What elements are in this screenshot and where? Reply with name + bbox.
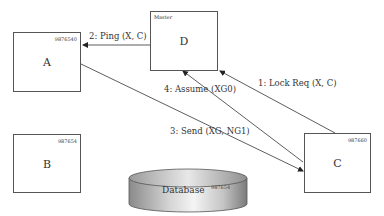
- node-d-tag: Master: [154, 14, 172, 20]
- node-c-id: 987660: [348, 137, 367, 143]
- node-d-name: D: [151, 35, 217, 48]
- node-b-id: 987654: [58, 138, 77, 144]
- node-c-name: C: [305, 157, 370, 170]
- node-b[interactable]: 987654 B: [13, 134, 81, 193]
- node-d-master[interactable]: Master D: [150, 11, 218, 71]
- node-b-name: B: [14, 157, 80, 170]
- label-lock-req: 1: Lock Req (X, C): [258, 78, 337, 88]
- label-assume: 4: Assume (XG0): [164, 84, 236, 94]
- label-send: 3: Send (XG, NG1): [170, 126, 250, 136]
- node-a[interactable]: 9876540 A: [13, 32, 81, 92]
- database-id: 987654: [211, 184, 230, 190]
- node-a-name: A: [14, 56, 80, 69]
- node-c[interactable]: 987660 C: [304, 133, 371, 193]
- label-ping: 2: Ping (X, C): [89, 31, 147, 41]
- diagram-canvas: 9876540 A Master D 987654 B 987660 C 2: …: [0, 0, 384, 216]
- node-a-id: 9876540: [55, 36, 77, 42]
- database-label: Database: [162, 185, 205, 195]
